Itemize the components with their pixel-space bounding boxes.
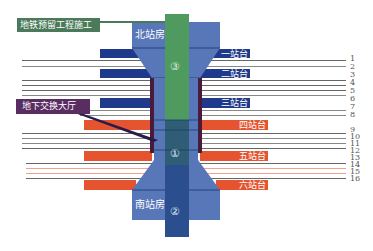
subway-reserved-text: 地铁预留工程施工: [20, 20, 92, 30]
zone-2-label: ②: [170, 205, 180, 218]
subway-reserved-callout: 地铁预留工程施工: [17, 18, 100, 32]
south-station-label: 南站房: [135, 200, 165, 210]
station-structure: [0, 0, 373, 251]
right-wall: [198, 78, 202, 153]
zone-1-label: ①: [170, 147, 180, 160]
hall-callout-leader: [72, 112, 158, 142]
north-station-label: 北站房: [135, 30, 165, 40]
underground-hall-callout: 地下交换大厅: [16, 99, 90, 114]
zone-3-label: ③: [170, 60, 180, 73]
underground-hall-text: 地下交换大厅: [22, 101, 76, 111]
track-number: 8: [350, 111, 355, 119]
zone-2-column: [165, 165, 189, 237]
track-number: 16: [350, 175, 360, 183]
